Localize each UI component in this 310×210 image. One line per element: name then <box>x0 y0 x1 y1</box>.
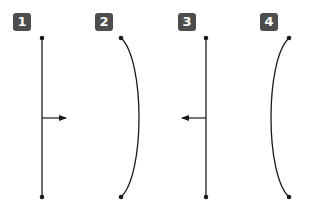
panel-3-straight-line <box>182 36 208 200</box>
endpoint-dot-icon <box>204 195 209 200</box>
endpoint-dot-icon <box>119 195 124 200</box>
panel-1-straight-line <box>40 36 66 200</box>
endpoint-dot-icon <box>40 36 45 41</box>
endpoint-dot-icon <box>287 36 292 41</box>
diagram-canvas <box>0 0 310 210</box>
endpoint-dot-icon <box>40 195 45 200</box>
endpoint-dot-icon <box>287 195 292 200</box>
panel-4-curve <box>271 36 291 200</box>
endpoint-dot-icon <box>119 36 124 41</box>
panel-2-curve <box>119 36 139 200</box>
endpoint-dot-icon <box>204 36 209 41</box>
